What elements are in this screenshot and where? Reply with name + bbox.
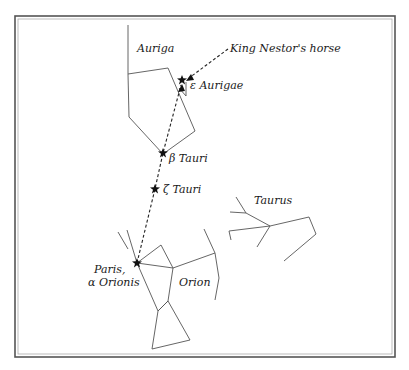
label-orion: Orion <box>179 276 211 289</box>
star-icon-beta-tauri <box>158 148 168 158</box>
label-beta-tauri: β Tauri <box>168 152 208 165</box>
orion-lines <box>118 229 219 349</box>
label-paris: Paris, <box>93 263 125 276</box>
label-taurus: Taurus <box>254 194 292 207</box>
label-alpha-orionis: α Orionis <box>88 276 140 289</box>
label-zeta-tauri: ζ Tauri <box>163 183 201 196</box>
constellation-diagram: Auriga King Nestor's horse ε Aurigae β T… <box>0 0 409 370</box>
label-epsilon-aurigae: ε Aurigae <box>190 79 244 92</box>
star-icon-epsilon-aurigae <box>177 75 187 85</box>
star-icon-alpha-orionis <box>132 258 142 268</box>
frame <box>15 16 395 357</box>
label-auriga: Auriga <box>136 42 174 55</box>
label-king-nestor: King Nestor's horse <box>229 42 341 55</box>
star-icon-zeta-tauri <box>150 184 160 194</box>
